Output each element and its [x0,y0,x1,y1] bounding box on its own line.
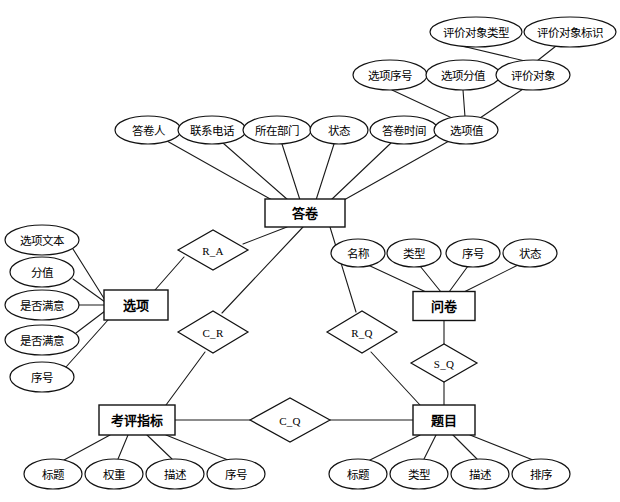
attribute-attr_type_q: 类型 [387,239,441,267]
edge-R_Q-to-question [371,352,420,405]
edge-attr_weight_i-to-indicator [118,435,128,459]
edge-attr_option_value-to-answer_sheet [344,141,449,200]
attribute-attr_opt_text: 选项文本 [5,225,79,255]
edge-attr_status_a-to-answer_sheet [316,144,334,200]
edge-attr_opt_text-to-option [73,249,105,300]
edge-R_A-to-option [155,257,184,290]
entity-indicator: 考评指标 [99,405,175,435]
entity-label: 问卷 [431,299,458,314]
edge-C_R-to-indicator [166,352,205,405]
attribute-attr_eval_obj: 评价对象 [496,60,570,90]
attribute-label: 评价对象 [511,69,555,83]
edge-attr_respondent-to-answer_sheet [167,141,272,200]
attribute-label: 评价对象类型 [443,26,509,40]
attribute-label: 名称 [347,247,370,261]
attribute-attr_eval_obj_id: 评价对象标识 [524,17,616,47]
attribute-attr_phone: 联系电话 [178,116,246,144]
attribute-label: 序号 [225,468,247,482]
edge-attr_answer_time-to-answer_sheet [331,143,391,200]
attribute-label: 评价对象标识 [537,26,603,40]
attribute-attr_seq_q: 序号 [446,239,500,267]
relationship-S_Q: S_Q [411,344,477,382]
relationship-C_Q: C_Q [250,398,330,442]
attribute-label: 所在部门 [255,124,299,138]
er-diagram-canvas: 评价对象类型评价对象标识选项序号选项分值评价对象答卷人联系电话所在部门状态答卷时… [0,0,620,502]
attribute-attr_satisfied_2: 是否满意 [5,325,79,355]
attribute-label: 描述 [164,468,187,482]
attribute-attr_dept: 所在部门 [243,116,311,144]
edge-attr_type_q-to-questionnaire [420,266,441,292]
attribute-attr_status_q: 状态 [503,239,557,267]
attribute-label: 排序 [530,468,552,482]
attribute-attr_option_value: 选项值 [434,116,498,144]
attribute-attr_answer_time: 答卷时间 [370,116,438,144]
attribute-label: 选项值 [450,124,484,138]
edge-attr_opt_score-to-attr_option_value [463,90,465,117]
entity-label: 考评指标 [111,413,163,428]
attribute-label: 标题 [347,468,370,482]
attribute-attr_respondent: 答卷人 [115,116,181,144]
attribute-attr_order_t: 排序 [512,459,570,489]
entity-answer_sheet: 答卷 [265,199,345,227]
edge-answer_sheet-to-C_R [222,227,303,313]
attribute-label: 是否满意 [20,334,64,348]
attribute-label: 答卷人 [132,124,166,138]
attribute-attr_opt_score: 选项分值 [426,60,500,90]
edge-attr_desc_i-to-indicator [147,435,172,459]
relationship-label: R_A [202,245,224,257]
attribute-label: 联系电话 [190,124,235,138]
attribute-label: 状态 [328,124,351,138]
attribute-attr_desc_i: 描述 [146,459,204,489]
relationship-label: S_Q [434,358,454,370]
attribute-label: 状态 [519,247,542,261]
relationship-R_Q: R_Q [327,311,397,353]
attribute-label: 标题 [42,468,65,482]
attribute-attr_desc_t: 描述 [451,459,509,489]
attribute-attr_name_q: 名称 [331,239,385,267]
edge-attr_dept-to-answer_sheet [282,144,300,200]
attribute-label: 描述 [469,468,492,482]
attribute-attr_title_i: 标题 [24,459,82,489]
entity-label: 题目 [431,413,457,428]
attribute-label: 权重 [103,468,125,482]
edge-attr_status_q-to-questionnaire [464,265,518,292]
attribute-attr_seq_i: 序号 [207,459,265,489]
edge-attr_opt_seq-to-attr_option_value [392,90,452,118]
relationship-R_A: R_A [178,230,248,270]
edge-attr_phone-to-answer_sheet [223,143,288,200]
edge-attr_eval_obj_id-to-attr_eval_obj [537,46,556,61]
attribute-label: 分值 [31,266,54,280]
attribute-label: 选项序号 [368,69,412,83]
entity-option: 选项 [104,290,168,320]
attribute-attr_weight_i: 权重 [85,459,143,489]
attribute-attr_title_t: 标题 [329,459,387,489]
attribute-label: 选项分值 [441,69,486,83]
edge-attr_title_t-to-question [370,435,420,460]
attribute-label: 类型 [408,468,430,482]
attribute-attr_seq_opt: 序号 [10,362,74,392]
edge-attr_seq_q-to-questionnaire [449,266,468,292]
edge-attr_score-to-option [73,279,105,302]
entity-label: 答卷 [292,206,319,221]
edge-attr_eval_obj_type-to-attr_eval_obj [462,46,525,61]
attribute-label: 类型 [403,247,425,261]
attribute-attr_status_a: 状态 [310,116,368,144]
entity-questionnaire: 问卷 [413,292,475,321]
edge-attr_title_i-to-indicator [64,435,110,460]
attribute-label: 序号 [31,371,53,385]
edge-attr_order_t-to-question [470,435,533,460]
entity-label: 选项 [123,298,149,313]
edge-attr_eval_obj-to-attr_option_value [480,89,523,118]
attribute-label: 答卷时间 [382,124,426,138]
attribute-attr_score: 分值 [10,257,74,287]
edge-attr_satisfied_2-to-option [76,311,105,333]
attribute-attr_satisfied_1: 是否满意 [5,290,79,320]
attribute-label: 是否满意 [20,299,64,313]
relationship-C_R: C_R [178,311,248,353]
edge-attr_type_t-to-question [424,435,436,459]
attribute-attr_type_t: 类型 [390,459,448,489]
attribute-label: 选项文本 [20,234,65,248]
attribute-attr_eval_obj_type: 评价对象类型 [430,17,522,47]
relationship-label: C_R [202,327,223,339]
attribute-attr_opt_seq: 选项序号 [353,60,427,90]
